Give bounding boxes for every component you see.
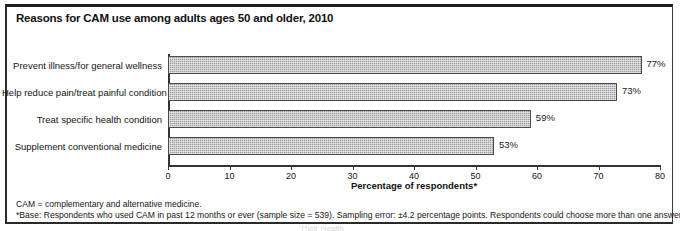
bar-value-label: 53% bbox=[499, 139, 518, 150]
bar bbox=[168, 56, 642, 74]
x-tick-mark bbox=[168, 165, 169, 170]
bar-value-label: 73% bbox=[622, 85, 641, 96]
category-axis-labels: Prevent illness/for general wellnessHelp… bbox=[0, 56, 162, 166]
plot-area: 77%73%59%53% bbox=[168, 56, 660, 164]
x-tick-mark bbox=[660, 165, 661, 170]
category-label: Help reduce pain/treat painful condition bbox=[2, 87, 162, 98]
x-tick-mark bbox=[291, 165, 292, 170]
bar bbox=[168, 110, 531, 128]
x-tick-mark bbox=[230, 165, 231, 170]
chart-title: Reasons for CAM use among adults ages 50… bbox=[16, 12, 333, 24]
category-label: Treat specific health condition bbox=[2, 114, 162, 125]
category-label: Prevent illness/for general wellness bbox=[2, 60, 162, 71]
bar-value-label: 77% bbox=[647, 58, 666, 69]
x-tick-mark bbox=[476, 165, 477, 170]
bar bbox=[168, 83, 617, 101]
x-tick-mark bbox=[599, 165, 600, 170]
bar-row: 77% bbox=[168, 56, 660, 74]
footnote-base: *Base: Respondents who used CAM in past … bbox=[16, 210, 664, 221]
bar bbox=[168, 137, 494, 155]
bar-row: 73% bbox=[168, 83, 660, 101]
bar-row: 53% bbox=[168, 137, 660, 155]
category-label: Supplement conventional medicine bbox=[2, 141, 162, 152]
bar-value-label: 59% bbox=[536, 112, 555, 123]
footnotes: CAM = complementary and alternative medi… bbox=[16, 199, 664, 221]
x-tick-mark bbox=[353, 165, 354, 170]
x-tick-mark bbox=[537, 165, 538, 170]
bar-row: 59% bbox=[168, 110, 660, 128]
scan-bleed-text: Their Health bbox=[300, 224, 344, 231]
x-tick-mark bbox=[414, 165, 415, 170]
x-axis-title: Percentage of respondents* bbox=[168, 180, 660, 191]
footnote-abbreviation: CAM = complementary and alternative medi… bbox=[16, 199, 664, 210]
